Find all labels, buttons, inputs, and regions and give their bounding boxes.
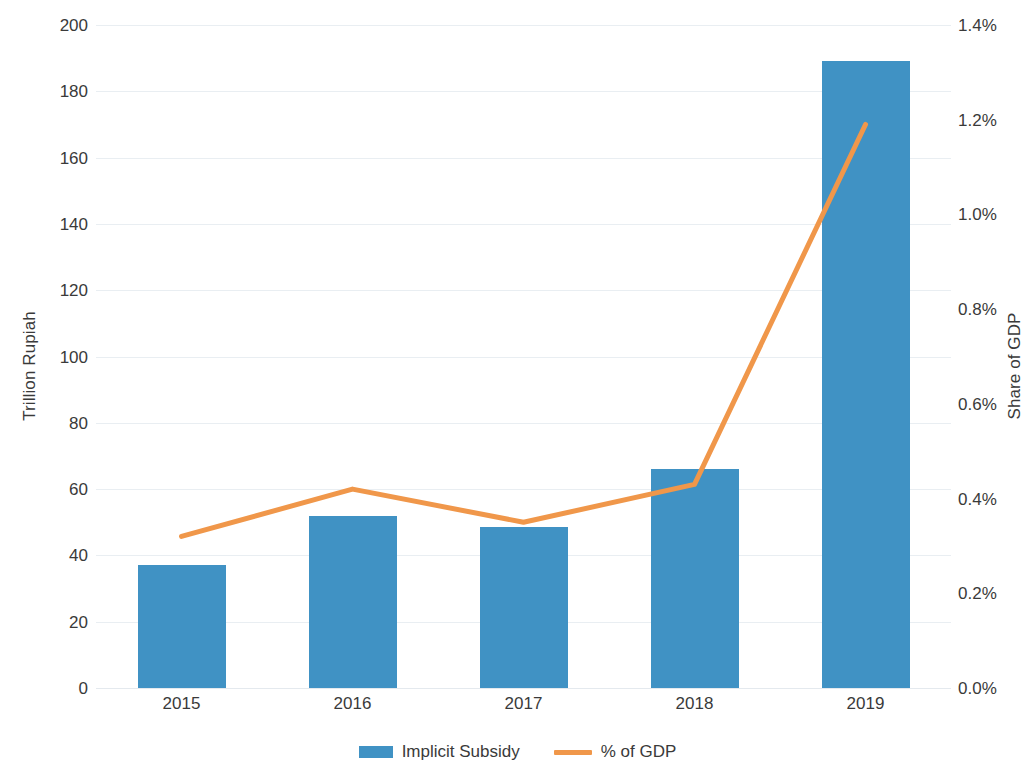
legend-item-pct-of-gdp[interactable]: % of GDP (554, 742, 677, 762)
plot-area (96, 25, 951, 688)
y-axis-left-tick-label: 180 (60, 83, 88, 100)
legend-bar-swatch-icon (359, 746, 393, 758)
y-axis-left-tick-label: 140 (60, 216, 88, 233)
chart-legend: Implicit Subsidy % of GDP (0, 742, 1035, 762)
y-axis-left-tick-label: 20 (69, 614, 88, 631)
x-axis-tick-label: 2016 (334, 694, 372, 714)
y-axis-left-tick-label: 200 (60, 17, 88, 34)
y-axis-left-tick-label: 160 (60, 150, 88, 167)
y-axis-left-tick-label: 60 (69, 481, 88, 498)
x-axis-tick-label: 2018 (676, 694, 714, 714)
y-axis-right-tick-label: 0.8% (958, 301, 997, 318)
y-axis-right-tick-label: 1.0% (958, 206, 997, 223)
y-axis-left-tick-label: 40 (69, 547, 88, 564)
legend-label-pct-of-gdp: % of GDP (601, 742, 677, 762)
y-axis-right-tick-label: 1.2% (958, 112, 997, 129)
x-axis-ticks: 20152016201720182019 (96, 694, 951, 728)
legend-item-implicit-subsidy[interactable]: Implicit Subsidy (359, 742, 520, 762)
x-axis-tick-label: 2017 (505, 694, 543, 714)
y-axis-left-tick-label: 80 (69, 415, 88, 432)
y-axis-right-ticks: 0.0%0.2%0.4%0.6%0.8%1.0%1.2%1.4% (958, 0, 1028, 769)
y-axis-right-tick-label: 0.2% (958, 585, 997, 602)
chart-container: Trillion Rupiah Share of GDP 02040608010… (0, 0, 1035, 769)
y-axis-right-tick-label: 0.6% (958, 396, 997, 413)
clipped-title-strip (0, 0, 1035, 9)
y-axis-right-tick-label: 0.4% (958, 491, 997, 508)
legend-line-swatch-icon (554, 750, 592, 755)
y-axis-left-tick-label: 0 (79, 680, 88, 697)
y-axis-left-tick-label: 120 (60, 282, 88, 299)
line-path-svg (96, 25, 951, 688)
legend-label-implicit-subsidy: Implicit Subsidy (402, 742, 520, 762)
y-axis-left-ticks: 020406080100120140160180200 (18, 0, 88, 769)
line-path (182, 124, 866, 536)
y-axis-left-tick-label: 100 (60, 349, 88, 366)
line-series-pct-of-gdp (96, 25, 951, 688)
y-axis-right-tick-label: 0.0% (958, 680, 997, 697)
x-axis-tick-label: 2019 (847, 694, 885, 714)
y-axis-right-tick-label: 1.4% (958, 17, 997, 34)
x-axis-tick-label: 2015 (163, 694, 201, 714)
gridline (96, 688, 951, 689)
